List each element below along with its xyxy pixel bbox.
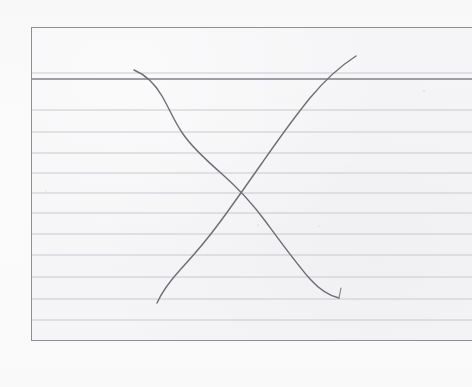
card-paper-texture: [32, 28, 472, 340]
screenshot-frame: [0, 0, 472, 387]
index-card: [31, 27, 472, 341]
